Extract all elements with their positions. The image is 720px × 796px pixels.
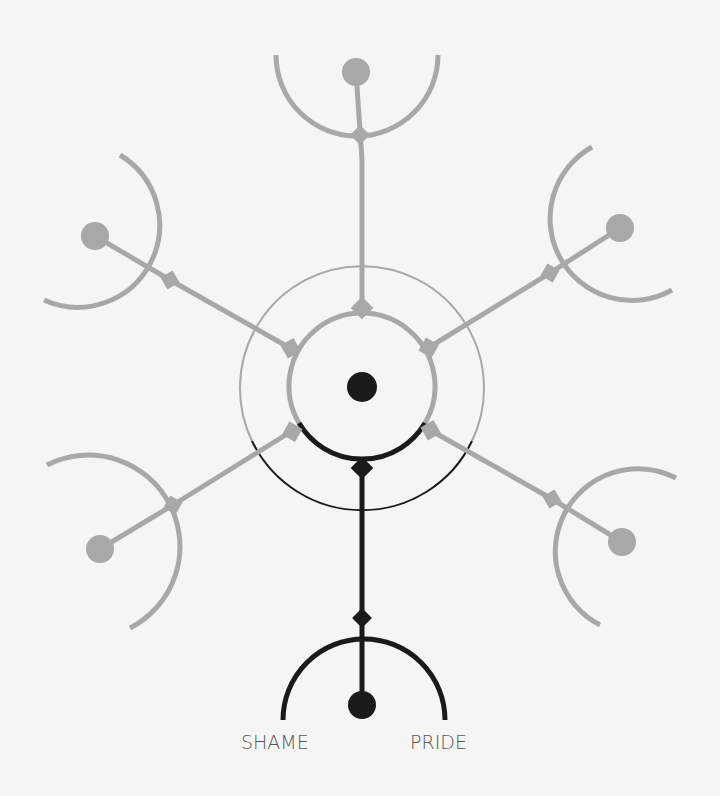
branch-upper-right [418, 147, 672, 358]
branch-lower-left [47, 421, 302, 628]
branch-upper-left [44, 155, 301, 358]
center-node [347, 372, 377, 402]
diagram-canvas: SHAME PRIDE [0, 0, 720, 796]
label-pride: PRIDE [410, 733, 467, 752]
branch-lower-right [420, 420, 676, 625]
radial-emotion-diagram [0, 0, 720, 796]
branch-top [276, 55, 438, 319]
label-shame: SHAME [241, 733, 309, 752]
